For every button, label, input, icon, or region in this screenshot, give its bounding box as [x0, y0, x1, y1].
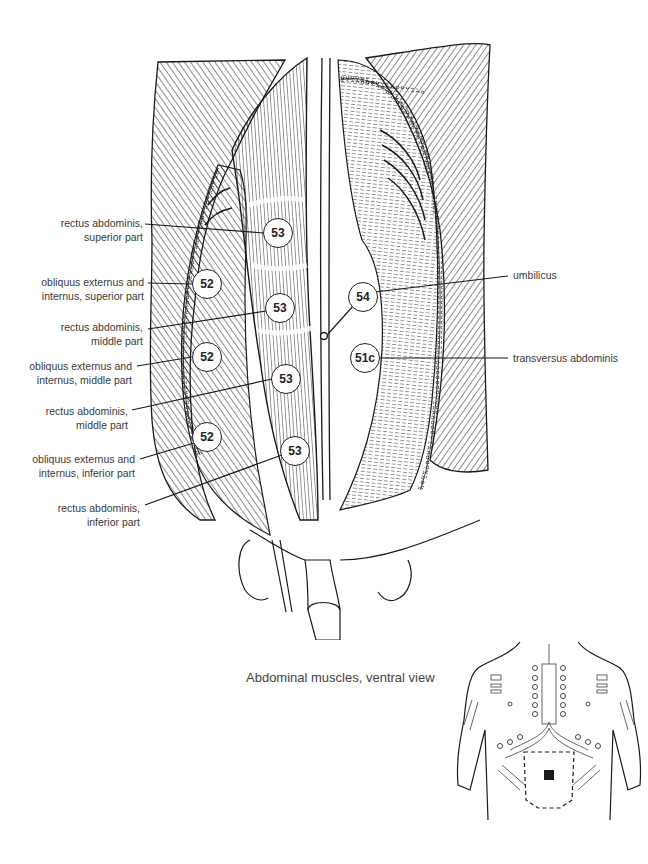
label-obliquus-middle: obliquus externus and internus, middle p… — [29, 360, 132, 387]
label-line: rectus abdominis, — [61, 217, 143, 231]
point-badge-54: 54 — [348, 282, 378, 312]
label-obliquus-inferior: obliquus externus and internus, inferior… — [32, 453, 135, 480]
linea-alba — [321, 58, 330, 500]
point-badge-53: 53 — [271, 364, 301, 394]
abdominal-muscles-illustration — [0, 0, 648, 640]
umbilicus-marker — [321, 333, 328, 340]
label-line: middle part — [46, 419, 128, 433]
point-badge-51c: 51c — [350, 343, 380, 373]
label-rectus-middle-2: rectus abdominis, middle part — [46, 405, 128, 432]
label-line: rectus abdominis, — [61, 321, 143, 335]
point-badge-53: 53 — [265, 293, 295, 323]
label-rectus-superior: rectus abdominis, superior part — [61, 217, 143, 244]
point-badge-52: 52 — [192, 342, 222, 372]
point-badge-53: 53 — [280, 436, 310, 466]
pelvis-lines — [239, 520, 480, 612]
label-line: superior part — [61, 231, 143, 245]
point-badge-52: 52 — [192, 422, 222, 452]
label-line: rectus abdominis, — [58, 502, 140, 516]
label-rectus-inferior: rectus abdominis, inferior part — [58, 502, 140, 529]
label-line: inferior part — [58, 516, 140, 530]
label-transversus: transversus abdominis — [513, 352, 618, 366]
label-rectus-middle-1: rectus abdominis, middle part — [61, 321, 143, 348]
point-badge-53: 53 — [263, 218, 293, 248]
label-line: internus, superior part — [41, 290, 144, 304]
label-line: internus, inferior part — [32, 467, 135, 481]
label-line: obliquus externus and — [29, 360, 132, 374]
label-line: internus, middle part — [29, 374, 132, 388]
label-obliquus-superior: obliquus externus and internus, superior… — [41, 276, 144, 303]
figure-caption: Abdominal muscles, ventral view — [246, 670, 435, 685]
label-umbilicus: umbilicus — [513, 269, 557, 283]
label-line: obliquus externus and — [41, 276, 144, 290]
label-line: obliquus externus and — [32, 453, 135, 467]
spermatic-cord — [305, 560, 340, 640]
point-badge-52: 52 — [192, 269, 222, 299]
label-line: rectus abdominis, — [46, 405, 128, 419]
body-locator-thumbnail — [450, 640, 648, 830]
label-line: middle part — [61, 335, 143, 349]
